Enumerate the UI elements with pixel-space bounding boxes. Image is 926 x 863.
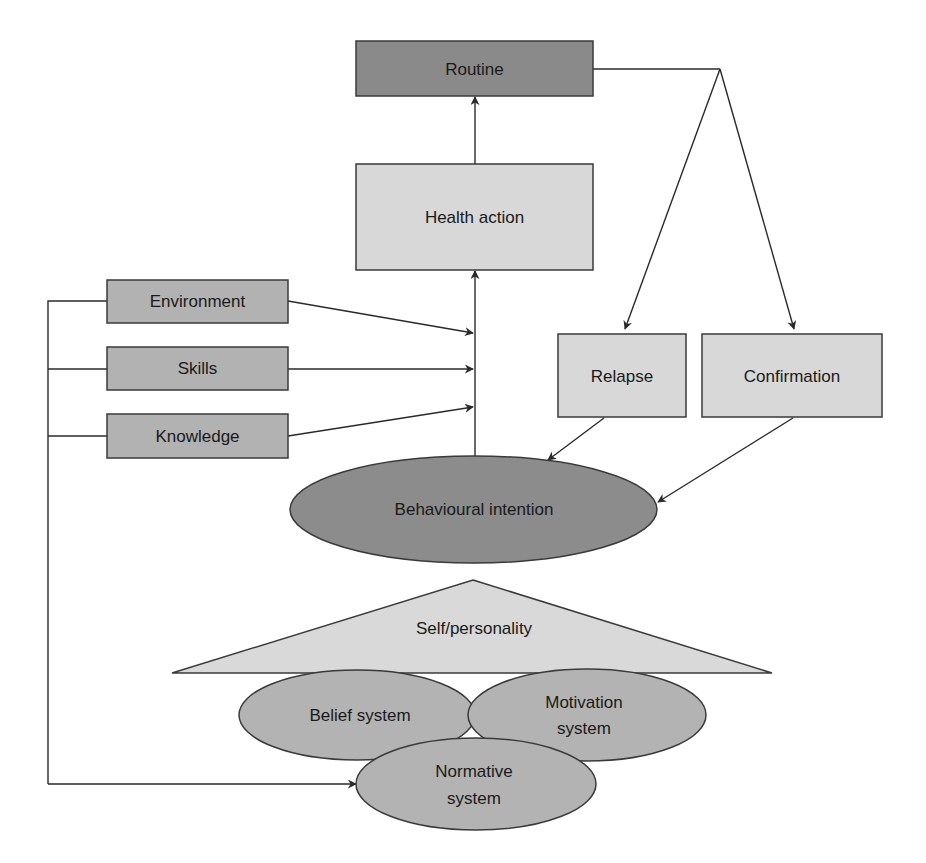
health-action-process-diagram: Routine Health action Environment Skills… — [0, 0, 926, 863]
edge-knowledge-to-link — [288, 407, 473, 436]
behavioural-intention-label: Behavioural intention — [395, 500, 554, 519]
self-personality-label: Self/personality — [416, 619, 533, 638]
node-behavioural-intention: Behavioural intention — [290, 456, 657, 563]
normative-system-label-line1: Normative — [435, 762, 512, 781]
belief-system-label: Belief system — [309, 706, 410, 725]
node-environment: Environment — [107, 280, 288, 323]
confirmation-label: Confirmation — [744, 367, 840, 386]
node-self-personality: Self/personality — [172, 580, 772, 673]
normative-system-ellipse — [356, 738, 596, 830]
relapse-label: Relapse — [591, 367, 653, 386]
edge-confirmation-to-intention — [658, 418, 793, 502]
health-action-label: Health action — [425, 208, 524, 227]
edge-environment-to-link — [288, 301, 473, 333]
edge-left-bracket — [48, 301, 107, 784]
node-skills: Skills — [107, 347, 288, 390]
skills-label: Skills — [178, 359, 218, 378]
normative-system-label-line2: system — [447, 789, 501, 808]
node-knowledge: Knowledge — [107, 414, 288, 458]
node-routine: Routine — [356, 41, 593, 96]
node-normative-system: Normative system — [356, 738, 596, 830]
edge-routine-to-relapse — [625, 69, 720, 329]
environment-label: Environment — [150, 292, 246, 311]
motivation-system-label-line1: Motivation — [545, 693, 622, 712]
node-health-action: Health action — [356, 164, 593, 270]
knowledge-label: Knowledge — [155, 427, 239, 446]
routine-label: Routine — [445, 60, 504, 79]
edge-routine-to-confirmation — [720, 69, 794, 329]
motivation-system-label-line2: system — [557, 719, 611, 738]
node-relapse: Relapse — [558, 334, 686, 417]
node-confirmation: Confirmation — [702, 334, 882, 417]
edge-relapse-to-intention — [548, 418, 604, 460]
